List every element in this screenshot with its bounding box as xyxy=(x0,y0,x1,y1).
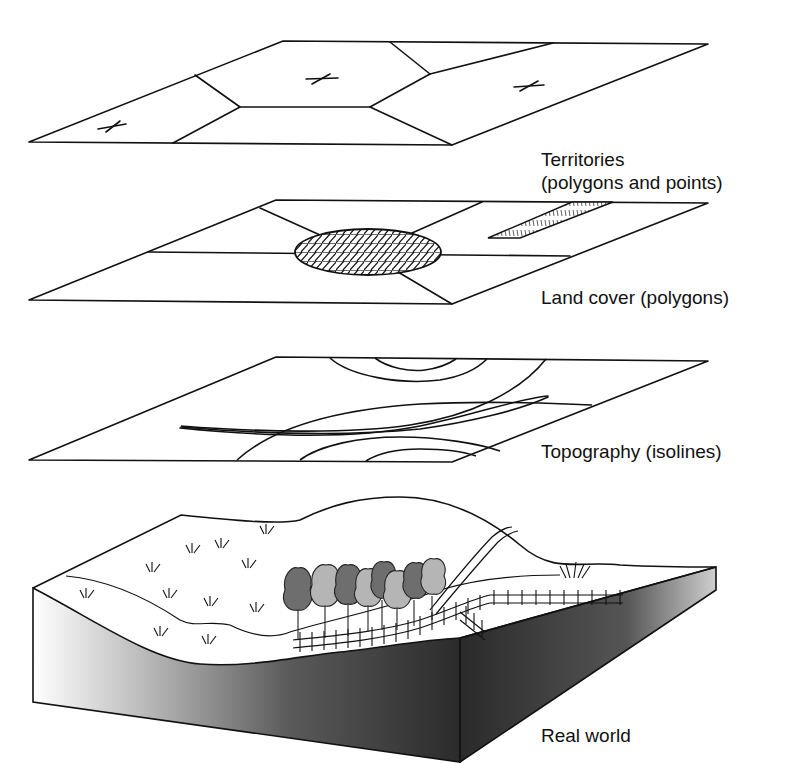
grass-icon xyxy=(146,562,160,572)
grass-icon xyxy=(163,588,177,598)
tree-icon xyxy=(283,568,311,640)
grass-icon xyxy=(215,538,229,548)
grass-icon xyxy=(202,634,216,644)
grass-icon xyxy=(154,626,168,636)
tree-icon xyxy=(311,565,340,638)
tree-icon xyxy=(421,559,446,620)
label-real-world: Real world xyxy=(541,724,631,747)
label-land-cover: Land cover (polygons) xyxy=(541,286,729,309)
grass-icon xyxy=(186,543,200,553)
label-territories-line1: Territories xyxy=(541,148,723,171)
real-world-block xyxy=(0,0,791,763)
grass-icon xyxy=(250,602,264,612)
stream xyxy=(436,531,518,614)
grass-icon xyxy=(242,558,256,568)
label-territories: Territories (polygons and points) xyxy=(541,148,723,194)
grass-icon xyxy=(260,524,274,534)
label-territories-line2: (polygons and points) xyxy=(541,171,723,194)
grass-icon xyxy=(80,588,94,598)
label-topography: Topography (isolines) xyxy=(541,440,722,463)
block-front-face xyxy=(33,588,460,762)
grass-icon xyxy=(204,596,218,606)
